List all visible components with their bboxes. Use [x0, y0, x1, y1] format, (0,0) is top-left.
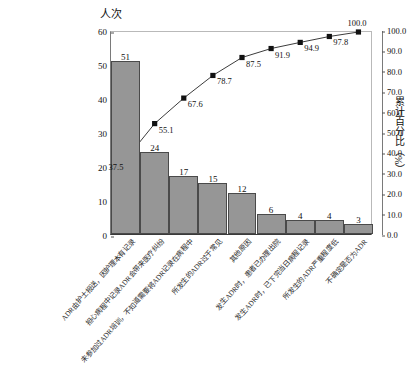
bar-value-label: 6: [269, 205, 274, 215]
bar-value-label: 51: [121, 52, 130, 62]
line-marker: [327, 34, 332, 39]
pareto-chart: 人次 累计百分比（%） 6050403020100512417151264433…: [0, 0, 420, 385]
bar: [198, 183, 227, 234]
y-tick-left: 0: [103, 232, 112, 241]
bar: [315, 220, 344, 234]
y-tick-left: 10: [98, 198, 111, 207]
y-tick-right: 30.0: [382, 169, 402, 178]
line-marker: [152, 121, 157, 126]
x-axis-category-label: 其他原因: [228, 238, 253, 264]
y-tick-left: 40: [98, 96, 111, 105]
plot-area: 60504030201005124171512644337.555.167.67…: [110, 31, 372, 235]
y-tick-left: 60: [98, 28, 111, 37]
cumulative-value-label: 67.6: [188, 100, 203, 109]
y-tick-right: 10.0: [382, 210, 402, 219]
line-marker: [356, 29, 361, 34]
x-axis-category-label: 所发生的ADR严重程度低: [282, 238, 340, 301]
bar-value-label: 15: [208, 174, 217, 184]
cumulative-value-label: 97.8: [333, 38, 348, 47]
x-axis-category-label: 未参加过ADR培训，不知道需要将ADR记录在病程中: [79, 238, 194, 365]
line-marker: [239, 55, 244, 60]
bar-value-label: 4: [298, 211, 303, 221]
bar-value-label: 4: [327, 211, 332, 221]
bar: [257, 214, 286, 234]
bar: [169, 176, 198, 234]
bar: [286, 220, 315, 234]
bar-value-label: 12: [238, 184, 247, 194]
cumulative-value-label: 37.5: [109, 163, 124, 172]
cumulative-value-label: 94.9: [304, 44, 319, 53]
bar: [111, 61, 140, 234]
line-marker: [210, 73, 215, 78]
bar: [140, 152, 169, 234]
y-tick-right: 100.0: [382, 27, 406, 36]
cumulative-value-label: 100.0: [347, 19, 366, 28]
y-tick-right: 80.0: [382, 67, 402, 76]
bar-value-label: 17: [179, 167, 188, 177]
bar: [344, 224, 373, 234]
secondary-y-axis: 100.090.080.070.060.050.040.030.020.010.…: [382, 31, 383, 235]
bar-value-label: 3: [356, 215, 361, 225]
y-tick-left: 30: [98, 130, 111, 139]
line-marker: [181, 95, 186, 100]
y-tick-right: 20.0: [382, 190, 402, 199]
y-tick-right: 70.0: [382, 88, 402, 97]
y-axis-title-left: 人次: [100, 8, 122, 20]
y-tick-right: 50.0: [382, 129, 402, 138]
y-tick-right: 40.0: [382, 149, 402, 158]
cumulative-value-label: 78.7: [217, 77, 232, 86]
y-tick-right: 60.0: [382, 108, 402, 117]
cumulative-line: [126, 32, 359, 160]
bar-value-label: 24: [150, 143, 159, 153]
cumulative-value-label: 87.5: [246, 60, 261, 69]
y-tick-right: 90.0: [382, 47, 402, 56]
cumulative-value-label: 91.9: [275, 51, 290, 60]
bar: [228, 193, 257, 234]
y-tick-right: 0.0: [382, 231, 398, 240]
cumulative-value-label: 55.1: [159, 126, 174, 135]
line-marker: [269, 46, 274, 51]
y-tick-left: 50: [98, 62, 111, 71]
line-marker: [298, 40, 303, 45]
x-axis-category-label: 所发生的ADR过于常见: [170, 238, 224, 296]
